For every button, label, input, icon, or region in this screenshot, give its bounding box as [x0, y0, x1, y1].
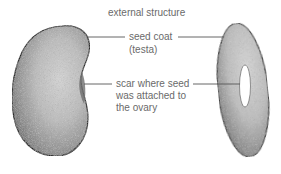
bean-edge-view — [211, 21, 275, 159]
scar-label-line3: the ovary — [116, 102, 157, 114]
scar-label-line1: scar where seed — [116, 78, 189, 90]
scar-hilum — [240, 65, 251, 107]
bean-side-view — [12, 26, 89, 156]
testa-label: (testa) — [129, 44, 157, 56]
scar-label-line2: was attached to — [116, 90, 186, 102]
seed-external-structure-diagram: external structure seed coat (testa) sca… — [0, 0, 281, 174]
diagram-title: external structure — [108, 7, 185, 19]
bean-side-outline — [12, 26, 89, 156]
seed-coat-label: seed coat — [129, 31, 172, 43]
